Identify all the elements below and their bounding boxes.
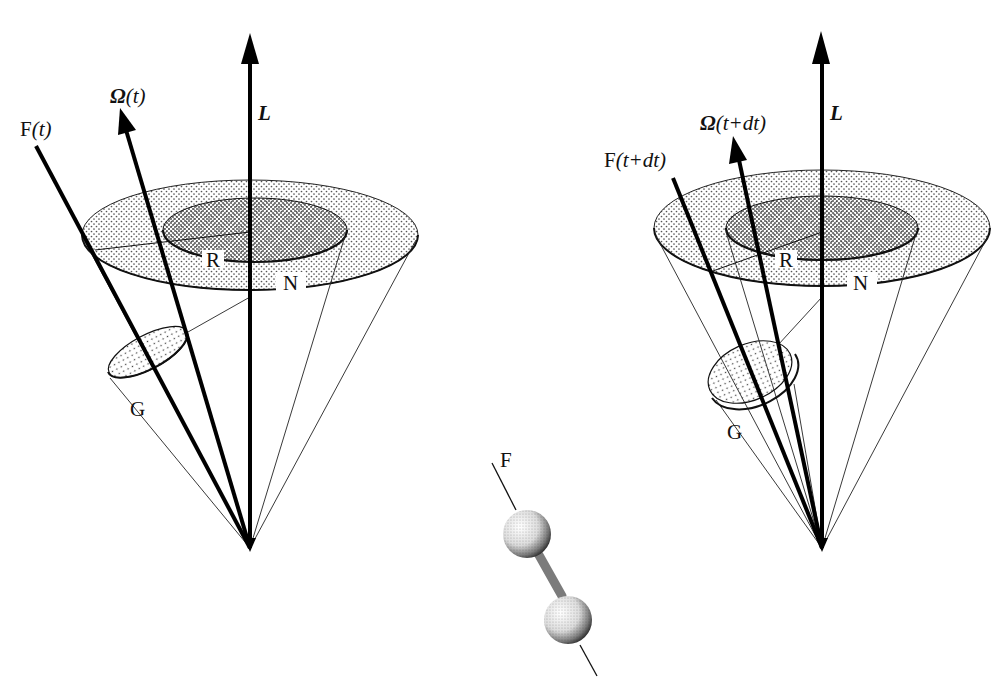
apex-left [244,538,256,552]
n-label-left: N [283,273,298,294]
n-label-right: N [853,273,868,294]
f-arg: (t) [32,117,52,141]
g-label-right: G [727,422,742,443]
f-symbol: F [604,148,616,172]
f-symbol: F [20,117,32,141]
f-label-left: F(t) [20,119,52,140]
omega-arg: (t) [126,84,146,108]
r-label-right: R [779,250,793,271]
omega-label-left: Ω(t) [110,86,146,107]
molecule-bond [535,548,562,596]
omega-label-right: Ω(t+dt) [700,113,766,134]
l-vector-right [812,31,830,548]
precession-diagram [0,0,1007,699]
omega-symbol: Ω [700,111,716,135]
f-arg: (t+dt) [616,148,666,172]
omega-symbol: Ω [110,84,126,108]
omega-vector-left [118,108,250,548]
r-label-left: R [206,250,220,271]
left-panel [36,33,418,552]
cone-g-right [698,297,822,548]
f-label-right: F(t+dt) [604,150,666,171]
molecule-axis-bottom [580,645,597,676]
apex-right [816,538,828,552]
dumbbell-molecule [492,463,597,676]
l-label-left: L [258,103,271,124]
f-label-molecule: F [500,450,512,471]
l-label-right: L [830,103,843,124]
omega-arg: (t+dt) [716,111,766,135]
right-panel [654,31,990,552]
cone-g-left [101,297,250,548]
g-label-left: G [130,399,145,420]
